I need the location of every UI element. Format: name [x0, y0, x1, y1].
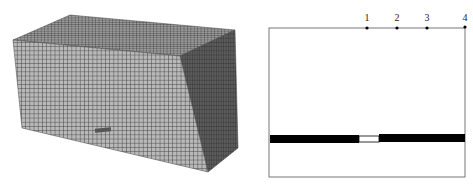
schematic-graphic	[260, 0, 473, 188]
point-label-3: 3	[425, 12, 430, 23]
layer-gap	[359, 136, 379, 142]
layer-bar-right	[379, 134, 465, 142]
layer-bar-left	[270, 135, 359, 143]
mesh-model-figure	[0, 0, 250, 188]
mesh-block-graphic	[0, 0, 250, 188]
cross-section-schematic: 1 2 3 4	[260, 0, 473, 188]
mesh-front-face	[13, 40, 208, 172]
point-1-marker	[365, 26, 368, 29]
point-4-marker	[463, 25, 466, 28]
point-label-2: 2	[395, 12, 400, 23]
domain-boundary	[269, 28, 465, 177]
point-3-marker	[425, 26, 428, 29]
point-2-marker	[395, 26, 398, 29]
point-label-4: 4	[463, 12, 468, 23]
point-label-1: 1	[365, 12, 370, 23]
